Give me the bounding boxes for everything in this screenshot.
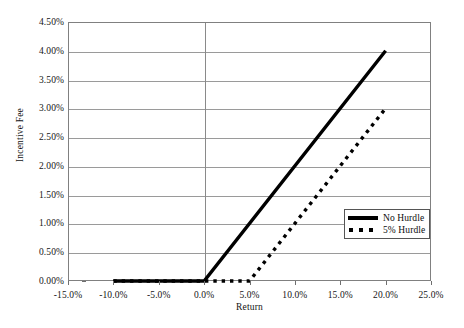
y-axis-tick-labels: 0.00%0.50%1.00%1.50%2.00%2.50%3.00%3.50%… bbox=[18, 22, 64, 281]
x-axis-tick-mark bbox=[340, 281, 341, 285]
gridline-horizontal bbox=[69, 138, 430, 139]
chart-legend: No Hurdle 5% Hurdle bbox=[344, 209, 430, 239]
x-axis-tick-mark bbox=[204, 281, 205, 285]
gridline-vertical-zero bbox=[205, 23, 206, 280]
y-axis-tick-label: 2.50% bbox=[20, 132, 64, 142]
y-axis-tick-label: 4.00% bbox=[20, 46, 64, 56]
y-axis-tick-label: 4.50% bbox=[20, 17, 64, 27]
incentive-fee-chart: Incentive Fee 0.00%0.50%1.00%1.50%2.00%2… bbox=[0, 0, 464, 328]
x-axis-tick-mark bbox=[113, 281, 114, 285]
x-axis-tick-mark bbox=[250, 281, 251, 285]
legend-item-5-percent-hurdle: 5% Hurdle bbox=[348, 224, 425, 236]
y-axis-tick-label: 3.00% bbox=[20, 103, 64, 113]
y-axis-tick-label: 0.00% bbox=[20, 276, 64, 286]
legend-label-no-hurdle: No Hurdle bbox=[383, 213, 424, 224]
gridline-horizontal bbox=[69, 253, 430, 254]
gridline-horizontal bbox=[69, 109, 430, 110]
x-axis-tick-mark bbox=[431, 281, 432, 285]
x-axis-title: Return bbox=[68, 302, 431, 312]
y-axis-tick-label: 3.50% bbox=[20, 75, 64, 85]
y-axis-tick-label: 1.50% bbox=[20, 190, 64, 200]
x-axis-tick-mark bbox=[68, 281, 69, 285]
y-axis-tick-label: 2.00% bbox=[20, 161, 64, 171]
legend-swatch-solid-icon bbox=[348, 213, 378, 223]
legend-swatch-dotted-icon bbox=[348, 225, 378, 235]
x-axis-tick-mark bbox=[295, 281, 296, 285]
y-axis-tick-label: 1.00% bbox=[20, 218, 64, 228]
x-axis-tick-mark bbox=[159, 281, 160, 285]
legend-item-no-hurdle: No Hurdle bbox=[348, 212, 425, 224]
y-axis-tick-label: 0.50% bbox=[20, 247, 64, 257]
legend-label-5-percent-hurdle: 5% Hurdle bbox=[383, 225, 425, 236]
plot-area bbox=[68, 22, 431, 281]
gridline-horizontal bbox=[69, 52, 430, 53]
gridline-horizontal bbox=[69, 196, 430, 197]
x-axis-tick-mark bbox=[386, 281, 387, 285]
x-axis-tick-label: 25.0% bbox=[401, 290, 461, 301]
gridline-horizontal bbox=[69, 167, 430, 168]
gridline-horizontal bbox=[69, 81, 430, 82]
